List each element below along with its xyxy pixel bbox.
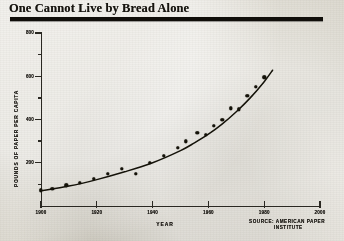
x-tick-label: 1900 [36,210,47,215]
data-point [237,107,240,110]
y-tick-major [35,162,42,163]
data-point [50,187,53,190]
y-tick-minor [38,54,42,55]
data-point [120,167,123,170]
plot-curve [0,0,344,241]
x-tick-label: 2000 [315,210,326,215]
y-tick-major [35,119,42,120]
x-tick [152,201,153,208]
data-point [78,181,81,184]
data-point [148,161,151,164]
y-tick-major [35,76,42,77]
x-tick [264,201,265,208]
x-tick-label: 1940 [147,210,158,215]
source-line-2: INSTITUTE [274,225,325,231]
data-point [196,131,199,134]
y-tick-label: 600 [26,74,34,79]
chart-figure: One Cannot Live by Bread Alone 200400600… [0,0,344,241]
y-tick-label: 200 [26,160,34,165]
data-point [64,184,67,187]
x-tick [208,201,209,208]
source-note: SOURCE: AMERICAN PAPER INSTITUTE [249,219,325,232]
x-tick-label: 1960 [203,210,214,215]
y-tick-minor [38,97,42,98]
data-point [184,139,187,142]
x-tick [40,201,41,208]
x-tick [319,201,320,208]
data-point [176,146,179,149]
data-point [229,107,232,110]
x-tick-label: 1980 [259,210,270,215]
y-tick-minor [38,140,42,141]
data-point [92,177,95,180]
data-point [246,94,249,97]
data-point [204,133,207,136]
y-tick-minor [38,184,42,185]
data-point [262,75,265,78]
y-axis-title: POUNDS OF PAPER PER CAPITA [14,79,19,199]
data-point [162,154,165,157]
data-point [254,85,257,88]
title-rule [10,17,323,21]
y-tick-major [35,32,42,33]
source-line-1: SOURCE: AMERICAN PAPER [249,219,325,224]
x-axis-title: YEAR [156,221,174,227]
data-point [221,118,224,121]
x-tick-label: 1920 [91,210,102,215]
x-tick [96,201,97,208]
chart-title: One Cannot Live by Bread Alone [9,1,189,16]
y-tick-label: 800 [26,30,34,35]
data-point [134,172,137,175]
x-axis-line [41,206,321,207]
data-point [106,172,109,175]
data-point [212,124,215,127]
y-tick-label: 400 [26,117,34,122]
